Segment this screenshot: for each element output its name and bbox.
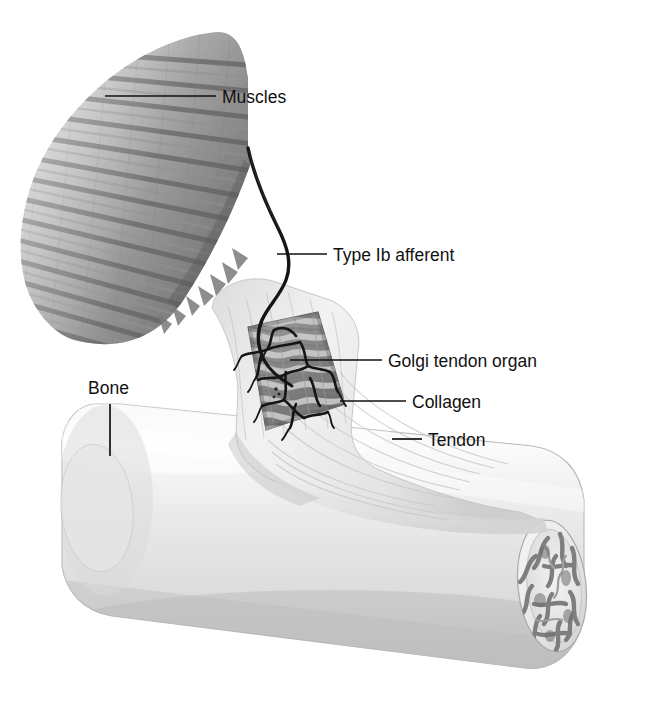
label-bone: Bone <box>88 378 129 398</box>
label-type-ib-afferent: Type Ib afferent <box>333 245 454 265</box>
label-collagen: Collagen <box>412 392 481 412</box>
label-tendon: Tendon <box>428 430 485 450</box>
anatomy-figure: Muscles Type Ib afferent Golgi tendon or… <box>0 0 647 710</box>
golgi-tendon-organ-illustration: Muscles Type Ib afferent Golgi tendon or… <box>0 0 647 710</box>
label-muscles: Muscles <box>222 87 286 107</box>
label-golgi-tendon-organ: Golgi tendon organ <box>388 351 537 371</box>
